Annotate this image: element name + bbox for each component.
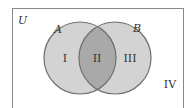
venn-diagram: U A B I II III IV: [0, 0, 193, 108]
set-a-label: A: [53, 23, 62, 36]
region-i-label: I: [63, 52, 67, 65]
region-iv-label: IV: [164, 78, 177, 91]
region-ii-label: II: [93, 52, 102, 65]
region-iii-label: III: [123, 52, 136, 65]
set-b-label: B: [132, 22, 141, 35]
universe-label: U: [18, 14, 28, 27]
